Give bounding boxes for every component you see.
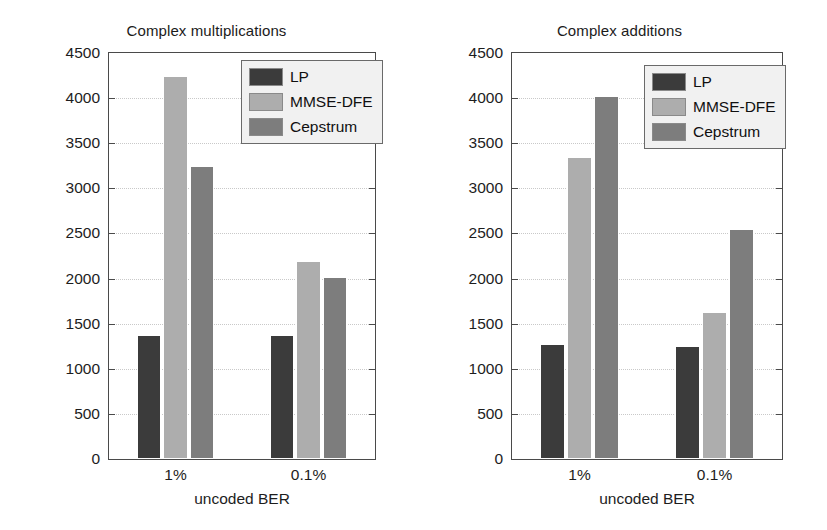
y-axis-tick-label: 500 (477, 405, 503, 423)
y-axis-tick-mark (512, 233, 518, 234)
y-axis-tick-mark (369, 459, 375, 460)
bar-mmse-dfe-0.1 (296, 261, 321, 459)
y-axis-tick-mark (369, 414, 375, 415)
bar-lp-0.1 (270, 335, 295, 459)
y-axis-tick-label: 3500 (469, 134, 503, 152)
gridline (109, 188, 375, 189)
x-axis-tick-label: 1% (164, 466, 186, 484)
bar-cepstrum-1 (594, 96, 619, 459)
y-axis-tick-mark (776, 459, 782, 460)
legend-swatch-lp (652, 73, 686, 91)
y-axis-tick-mark (109, 233, 115, 234)
y-axis-tick-label: 500 (74, 405, 100, 423)
x-axis-title-left: uncoded BER (194, 490, 290, 508)
chart-panel-complex-additions: Complex additions LP MMSE-DFE Cepstrum 0… (413, 0, 826, 530)
chart-title-right: Complex additions (413, 22, 826, 39)
y-axis-tick-label: 4000 (66, 89, 100, 107)
y-axis-tick-mark (512, 414, 518, 415)
legend-label-lp: LP (290, 69, 309, 85)
y-axis-tick-label: 4000 (469, 89, 503, 107)
y-axis-tick-label: 2000 (469, 270, 503, 288)
y-axis-tick-mark (776, 279, 782, 280)
y-axis-tick-label: 1000 (66, 360, 100, 378)
y-axis-tick-label: 1500 (469, 315, 503, 333)
x-axis-tick-label: 0.1% (697, 466, 732, 484)
legend-item-mmse-dfe: MMSE-DFE (652, 97, 776, 117)
y-axis-tick-mark (512, 369, 518, 370)
legend-swatch-cepstrum (652, 123, 686, 141)
bar-cepstrum-1 (190, 166, 215, 459)
figure-two-bar-charts: Complex multiplications LP MMSE-DFE Ceps… (0, 0, 827, 530)
y-axis-tick-mark (109, 143, 115, 144)
y-axis-tick-label: 2000 (66, 270, 100, 288)
y-axis-tick-mark (512, 279, 518, 280)
legend-label-mmse-dfe: MMSE-DFE (693, 99, 776, 115)
bar-mmse-dfe-0.1 (702, 312, 727, 459)
plot-area-left: LP MMSE-DFE Cepstrum 0500100015002000250… (108, 52, 376, 460)
y-axis-tick-mark (369, 324, 375, 325)
y-axis-tick-label: 4500 (66, 44, 100, 62)
legend-right: LP MMSE-DFE Cepstrum (644, 65, 786, 149)
y-axis-tick-label: 2500 (469, 224, 503, 242)
y-axis-tick-label: 1500 (66, 315, 100, 333)
legend-item-lp: LP (652, 72, 776, 92)
legend-swatch-mmse-dfe (652, 98, 686, 116)
y-axis-tick-mark (512, 324, 518, 325)
y-axis-tick-mark (109, 459, 115, 460)
y-axis-tick-mark (109, 98, 115, 99)
y-axis-tick-mark (109, 279, 115, 280)
y-axis-tick-mark (109, 414, 115, 415)
y-axis-tick-label: 0 (91, 450, 100, 468)
legend-label-mmse-dfe: MMSE-DFE (290, 94, 373, 110)
x-axis-title-right: uncoded BER (599, 490, 695, 508)
y-axis-tick-label: 4500 (469, 44, 503, 62)
bar-cepstrum-0.1 (729, 229, 754, 459)
y-axis-tick-mark (512, 459, 518, 460)
legend-swatch-lp (249, 68, 283, 86)
legend-item-cepstrum: Cepstrum (652, 122, 776, 142)
bar-cepstrum-0.1 (323, 277, 348, 459)
gridline (109, 233, 375, 234)
y-axis-tick-label: 2500 (66, 224, 100, 242)
y-axis-tick-label: 3000 (469, 179, 503, 197)
y-axis-tick-mark (369, 279, 375, 280)
chart-title-left: Complex multiplications (0, 22, 413, 39)
y-axis-tick-mark (776, 324, 782, 325)
y-axis-tick-mark (109, 324, 115, 325)
gridline (512, 188, 782, 189)
y-axis-tick-mark (776, 233, 782, 234)
y-axis-tick-label: 3500 (66, 134, 100, 152)
legend-item-mmse-dfe: MMSE-DFE (249, 92, 373, 112)
bar-mmse-dfe-1 (567, 157, 592, 459)
y-axis-tick-mark (776, 369, 782, 370)
bar-mmse-dfe-1 (163, 76, 188, 459)
y-axis-tick-mark (776, 414, 782, 415)
y-axis-tick-mark (512, 143, 518, 144)
y-axis-tick-mark (776, 188, 782, 189)
y-axis-tick-mark (369, 233, 375, 234)
plot-area-right: LP MMSE-DFE Cepstrum 0500100015002000250… (511, 52, 783, 460)
x-axis-tick-label: 1% (568, 466, 590, 484)
y-axis-tick-label: 0 (494, 450, 503, 468)
y-axis-tick-label: 1000 (469, 360, 503, 378)
x-axis-tick-label: 0.1% (291, 466, 326, 484)
y-axis-tick-label: 3000 (66, 179, 100, 197)
y-axis-tick-mark (109, 188, 115, 189)
y-axis-tick-mark (369, 188, 375, 189)
y-axis-tick-mark (512, 98, 518, 99)
y-axis-tick-mark (369, 369, 375, 370)
legend-item-lp: LP (249, 67, 373, 87)
bar-lp-1 (540, 344, 565, 459)
legend-label-lp: LP (693, 74, 712, 90)
y-axis-tick-mark (109, 369, 115, 370)
bar-lp-1 (137, 335, 162, 460)
bar-lp-0.1 (675, 346, 700, 459)
legend-label-cepstrum: Cepstrum (693, 124, 760, 140)
legend-label-cepstrum: Cepstrum (290, 119, 357, 135)
legend-item-cepstrum: Cepstrum (249, 117, 373, 137)
y-axis-tick-mark (512, 188, 518, 189)
legend-swatch-cepstrum (249, 118, 283, 136)
legend-swatch-mmse-dfe (249, 93, 283, 111)
legend-left: LP MMSE-DFE Cepstrum (241, 60, 383, 144)
chart-panel-complex-multiplications: Complex multiplications LP MMSE-DFE Ceps… (0, 0, 413, 530)
